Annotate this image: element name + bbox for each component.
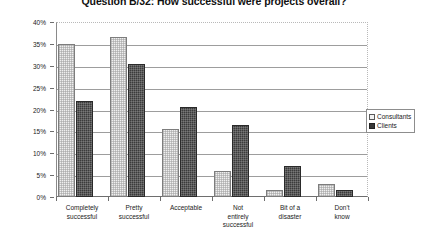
bar-consultants[interactable] bbox=[110, 37, 127, 197]
y-tick-mark bbox=[50, 131, 54, 132]
y-tick-label: 25% bbox=[33, 84, 46, 91]
x-category-label: Bit of adisaster bbox=[264, 204, 316, 221]
x-category-label: Completelysuccessful bbox=[56, 204, 108, 221]
bar-group bbox=[108, 22, 160, 197]
x-tick-mark bbox=[264, 197, 265, 201]
bar-clients[interactable] bbox=[128, 64, 145, 197]
bar-consultants[interactable] bbox=[318, 184, 335, 197]
y-tick-mark bbox=[50, 66, 54, 67]
bar-group bbox=[316, 22, 368, 197]
y-tick-mark bbox=[50, 110, 54, 111]
bar-consultants[interactable] bbox=[58, 44, 75, 197]
y-tick-mark bbox=[50, 88, 54, 89]
x-tick-mark bbox=[212, 197, 213, 201]
y-tick-label: 10% bbox=[33, 150, 46, 157]
x-axis: CompletelysuccessfulPrettysuccessfulAcce… bbox=[56, 197, 368, 237]
legend-label-clients: Clients bbox=[377, 122, 397, 129]
y-tick-label: 30% bbox=[33, 62, 46, 69]
x-tick-mark bbox=[368, 197, 369, 201]
x-category-label: Notentirelysuccessful bbox=[212, 204, 264, 230]
y-tick-mark bbox=[50, 153, 54, 154]
y-tick-label: 20% bbox=[33, 106, 46, 113]
bar-group bbox=[264, 22, 316, 197]
y-axis: 0%5%10%15%20%25%30%35%40% bbox=[0, 22, 54, 197]
y-tick-mark bbox=[50, 197, 54, 198]
bar-group bbox=[160, 22, 212, 197]
y-tick-label: 0% bbox=[37, 194, 46, 201]
x-category-label: Acceptable bbox=[160, 204, 212, 213]
bar-clients[interactable] bbox=[232, 125, 249, 197]
y-tick-mark bbox=[50, 175, 54, 176]
legend-item-clients[interactable]: Clients bbox=[369, 121, 411, 130]
legend-item-consultants[interactable]: Consultants bbox=[369, 112, 411, 121]
legend-label-consultants: Consultants bbox=[377, 113, 411, 120]
y-tick-label: 40% bbox=[33, 19, 46, 26]
x-tick-mark bbox=[316, 197, 317, 201]
bar-group bbox=[212, 22, 264, 197]
y-tick-label: 35% bbox=[33, 40, 46, 47]
chart-legend: Consultants Clients bbox=[366, 109, 415, 133]
x-tick-mark bbox=[108, 197, 109, 201]
x-tick-mark bbox=[56, 197, 57, 201]
legend-swatch-consultants-icon bbox=[369, 114, 375, 120]
x-category-label: Prettysuccessful bbox=[108, 204, 160, 221]
bar-group bbox=[56, 22, 108, 197]
x-category-label: Don'tknow bbox=[316, 204, 368, 221]
bar-consultants[interactable] bbox=[214, 171, 231, 197]
chart-title: Question B/32: How successful were proje… bbox=[0, 0, 428, 7]
bar-consultants[interactable] bbox=[162, 129, 179, 197]
y-tick-label: 15% bbox=[33, 128, 46, 135]
chart-container: Question B/32: How successful were proje… bbox=[0, 0, 428, 237]
x-tick-mark bbox=[160, 197, 161, 201]
bar-clients[interactable] bbox=[284, 166, 301, 197]
legend-swatch-clients-icon bbox=[369, 123, 375, 129]
y-tick-label: 5% bbox=[37, 172, 46, 179]
bars-layer bbox=[56, 22, 368, 197]
bar-clients[interactable] bbox=[180, 107, 197, 197]
bar-clients[interactable] bbox=[76, 101, 93, 197]
y-tick-mark bbox=[50, 22, 54, 23]
y-tick-mark bbox=[50, 44, 54, 45]
